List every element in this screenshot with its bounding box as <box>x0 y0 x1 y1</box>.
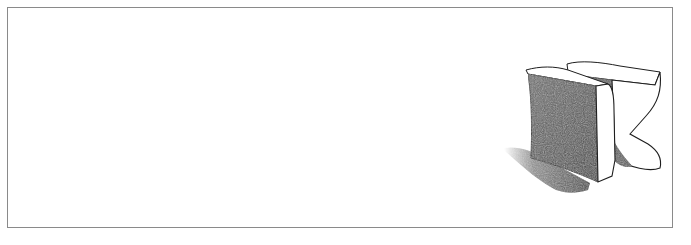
letter-k-illustration <box>0 0 691 245</box>
k-stem-front <box>596 84 615 182</box>
k-arms <box>612 72 661 170</box>
